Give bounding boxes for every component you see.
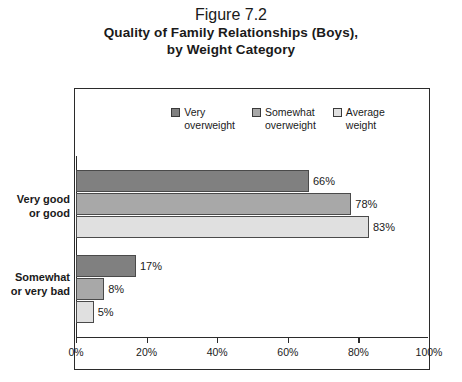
bar-value-label: 83%: [373, 216, 395, 238]
x-tick-mark: [288, 338, 289, 343]
x-tick-mark: [358, 338, 359, 343]
bar-somewhat-overweight-very-good-or-good[interactable]: [76, 193, 351, 215]
bar-very-overweight-very-good-or-good[interactable]: [76, 170, 309, 192]
x-tick-label: 100%: [416, 346, 443, 358]
bar-value-label: 66%: [313, 170, 335, 192]
page-subtitle: by Weight Category: [0, 41, 462, 58]
bar-average-weight-somewhat-or-very-bad[interactable]: [76, 301, 94, 323]
bar-very-overweight-somewhat-or-very-bad[interactable]: [76, 255, 136, 277]
x-tick-mark: [147, 338, 148, 343]
bar-value-label: 5%: [98, 301, 114, 323]
x-tick-label: 20%: [136, 346, 157, 358]
x-tick-mark: [76, 338, 77, 343]
bar-somewhat-overweight-somewhat-or-very-bad[interactable]: [76, 278, 104, 300]
figure-number: Figure 7.2: [0, 6, 462, 24]
chart-title-block: Figure 7.2 Quality of Family Relationshi…: [0, 6, 462, 58]
category-label-very-good-or-good: Very good or good: [17, 192, 70, 220]
x-tick-mark: [429, 338, 430, 343]
x-tick-mark: [217, 338, 218, 343]
x-tick-label: 40%: [207, 346, 228, 358]
category-label-somewhat-or-very-bad: Somewhat or very bad: [11, 270, 70, 298]
x-tick-label: 0%: [68, 346, 83, 358]
page-title: Quality of Family Relationships (Boys),: [0, 24, 462, 41]
bar-value-label: 78%: [355, 193, 377, 215]
x-tick-label: 80%: [348, 346, 369, 358]
x-tick-label: 60%: [277, 346, 298, 358]
bar-average-weight-very-good-or-good[interactable]: [76, 216, 369, 238]
bar-value-label: 8%: [108, 278, 124, 300]
x-axis-line: [76, 337, 428, 338]
plot-area: 0%20%40%60%80%100% 66%78%83%17%8%5%: [74, 88, 430, 370]
bar-value-label: 17%: [140, 255, 162, 277]
